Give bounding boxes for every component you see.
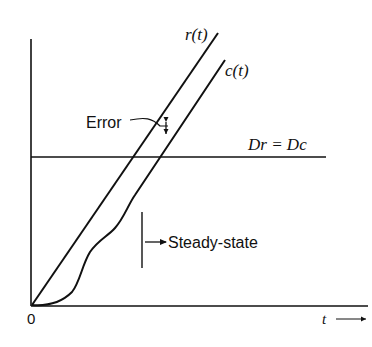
dr-equals-dc-label: Dr = Dc (247, 135, 307, 154)
output-label: c(t) (225, 61, 249, 80)
error-leader-line (130, 118, 168, 126)
reference-label: r(t) (185, 25, 208, 44)
reference-curve-r (32, 33, 218, 305)
steady-state-label: Steady-state (168, 234, 258, 251)
output-curve-c (32, 60, 225, 305)
response-diagram: r(t) c(t) Error Dr = Dc Steady-state 0 t (0, 0, 372, 347)
origin-label: 0 (27, 310, 35, 327)
time-axis-label: t (322, 311, 327, 327)
error-label: Error (86, 114, 122, 131)
